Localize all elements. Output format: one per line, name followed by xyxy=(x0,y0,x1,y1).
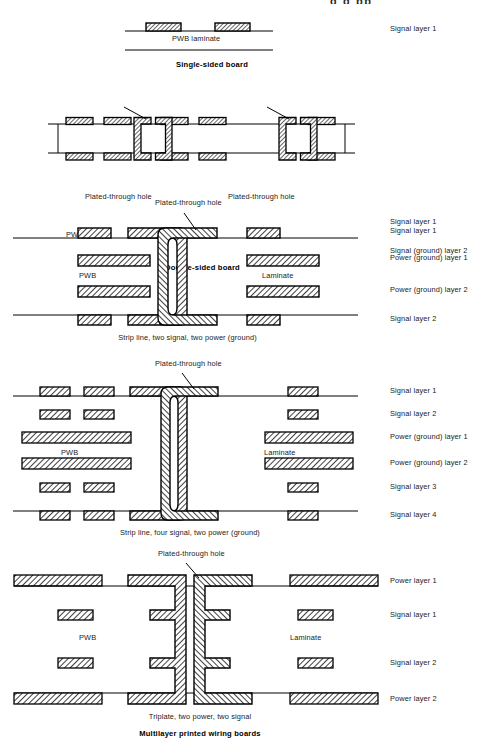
plated-through-hole-wall xyxy=(156,118,173,161)
conductor-pad xyxy=(78,315,111,325)
side-label-signal-layer-3: Signal layer 3 xyxy=(390,482,436,491)
inner-conductor xyxy=(288,483,318,492)
callout-leader-line xyxy=(267,107,289,119)
side-label-signal-layer-2: Signal layer 2 xyxy=(390,409,436,418)
side-label-signal-layer-1: Signal layer 1 xyxy=(390,24,436,33)
side-label-signal-layer-4: Signal layer 4 xyxy=(390,510,436,519)
side-label-power-ground-layer-2: Power (ground) layer 2 xyxy=(390,458,468,467)
figure-caption-single-sided: Single-sided board xyxy=(152,60,272,69)
plated-through-hole-wall-left xyxy=(130,387,187,520)
figure-stripline-two-signal: Plated-through hole PWB Laminate Signal … xyxy=(0,190,501,355)
plated-through-hole-wall-right xyxy=(194,575,252,704)
conductor-pad xyxy=(40,387,70,396)
conductor-pad xyxy=(247,315,280,325)
conductor-pad xyxy=(288,387,318,396)
figure-caption-stripline-two-signal: Strip line, two signal, two power (groun… xyxy=(85,333,290,342)
inner-conductor xyxy=(288,410,318,419)
conductor-pad xyxy=(84,387,114,396)
figure-single-sided-board: PWB laminate Signal layer 1 Single-sided… xyxy=(0,0,501,95)
callout-plated-through-hole: Plated-through hole xyxy=(155,198,222,207)
figure-stripline-four-signal: Plated-through hole PWB Laminate Signal … xyxy=(0,355,501,540)
conductor-pad xyxy=(40,511,70,520)
single-sided-drawing xyxy=(0,0,501,95)
inner-plane-conductor xyxy=(78,255,150,266)
inner-label-pwb-laminate: PWB laminate xyxy=(172,34,220,43)
stripline-two-signal-drawing xyxy=(0,190,501,355)
conductor-pad xyxy=(66,118,93,125)
side-label-signal-layer-2: Signal layer 2 xyxy=(390,314,436,323)
conductor-pad xyxy=(247,228,280,238)
inner-conductor xyxy=(84,410,114,419)
plated-through-hole-wall-left xyxy=(128,575,186,704)
conductor-pad xyxy=(78,228,111,238)
side-label-signal-layer-1: Signal layer 1 xyxy=(390,386,436,395)
conductor-pad xyxy=(199,153,226,160)
overall-figure-title: Multilayer printed wiring boards xyxy=(110,729,290,738)
inner-label-laminate: Laminate xyxy=(290,633,321,642)
double-sided-drawing xyxy=(0,95,501,190)
figure-triplate: Plated-through hole PWB Laminate Power l… xyxy=(0,545,501,744)
conductor-pad xyxy=(288,511,318,520)
inner-conductor xyxy=(40,483,70,492)
side-label-signal-layer-1: Signal layer 1 xyxy=(390,610,436,619)
inner-label-laminate: Laminate xyxy=(262,271,293,280)
figure-caption-stripline-four-signal: Strip line, four signal, two power (grou… xyxy=(80,528,300,537)
side-label-power-layer-1: Power layer 1 xyxy=(390,576,437,585)
figure-double-sided-board: Plated-through hole Plated-through hole … xyxy=(0,95,501,190)
side-label-power-ground-layer-1: Power (ground) layer 1 xyxy=(390,253,468,262)
conductor-pad xyxy=(104,118,131,125)
inner-label-pwb: PWB xyxy=(79,633,96,642)
power-plane xyxy=(290,575,378,586)
callout-plated-through-hole: Plated-through hole xyxy=(158,549,225,558)
power-plane xyxy=(14,693,102,704)
inner-plane-conductor xyxy=(247,286,319,297)
side-label-signal-layer-1: Signal layer 1 xyxy=(390,226,436,235)
inner-label-pwb: PWB xyxy=(61,448,78,457)
inner-conductor xyxy=(58,658,93,668)
power-plane xyxy=(22,458,131,469)
callout-plated-through-hole: Plated-through hole xyxy=(155,359,222,368)
callout-leader-line xyxy=(186,563,199,578)
plated-through-hole-wall xyxy=(279,118,296,161)
inner-label-pwb: PWB xyxy=(79,271,96,280)
conductor-pad xyxy=(104,153,131,160)
plated-through-hole-wall xyxy=(301,118,318,161)
inner-conductor xyxy=(298,610,333,620)
conductor-pad xyxy=(84,511,114,520)
plated-through-hole-wall xyxy=(134,118,151,161)
inner-conductor xyxy=(58,610,93,620)
power-plane xyxy=(265,458,353,469)
side-label-power-ground-layer-1: Power (ground) layer 1 xyxy=(390,432,468,441)
inner-conductor xyxy=(298,658,333,668)
figure-page: g g pp PWB laminate Signal layer 1 xyxy=(0,0,501,744)
side-label-signal-layer-2: Signal layer 2 xyxy=(390,658,436,667)
conductor-pad xyxy=(146,23,181,31)
side-label-power-layer-2: Power layer 2 xyxy=(390,694,437,703)
figure-caption-triplate: Triplate, two power, two signal xyxy=(120,712,280,721)
plated-through-hole-wall-right xyxy=(161,387,218,520)
conductor-pad xyxy=(66,153,93,160)
inner-plane-conductor xyxy=(247,255,319,266)
power-plane xyxy=(14,575,102,586)
inner-plane-conductor xyxy=(78,286,150,297)
inner-label-laminate: Laminate xyxy=(264,448,295,457)
conductor-pad xyxy=(199,118,226,125)
inner-conductor xyxy=(40,410,70,419)
side-label-power-ground-layer-2: Power (ground) layer 2 xyxy=(390,285,468,294)
power-plane xyxy=(265,432,353,443)
power-plane xyxy=(290,693,378,704)
conductor-pad xyxy=(215,23,250,31)
power-plane xyxy=(22,432,131,443)
inner-conductor xyxy=(84,483,114,492)
